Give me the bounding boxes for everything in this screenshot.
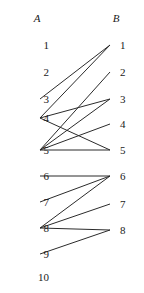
node-a-4: 4	[27, 112, 49, 124]
bipartite-diagram: A B 12345678910 12345678	[0, 0, 144, 293]
edge-A4-B5	[40, 118, 110, 150]
node-b-2: 2	[120, 66, 142, 78]
edge-A8-B7	[40, 204, 110, 228]
node-b-8: 8	[120, 224, 142, 236]
node-b-5: 5	[120, 144, 142, 156]
edge-A7-B6	[40, 176, 110, 202]
edge-A8-B6	[40, 176, 110, 228]
edge-A4-B1	[40, 45, 110, 118]
edge-A5-B2	[40, 72, 110, 150]
node-a-1: 1	[27, 39, 49, 51]
edge-A5-B3	[40, 99, 110, 150]
node-b-4: 4	[120, 118, 142, 130]
node-a-10: 10	[27, 271, 49, 283]
edge-A4-B3	[40, 99, 110, 118]
node-a-2: 2	[27, 66, 49, 78]
node-b-1: 1	[120, 39, 142, 51]
node-a-7: 7	[27, 196, 49, 208]
edge-A9-B8	[40, 230, 110, 254]
column-header-a: A	[27, 12, 47, 24]
node-b-6: 6	[120, 170, 142, 182]
node-b-3: 3	[120, 93, 142, 105]
edge-A3-B1	[40, 45, 110, 99]
edge-A8-B8	[40, 228, 110, 230]
node-a-8: 8	[27, 222, 49, 234]
column-header-b: B	[106, 12, 126, 24]
node-a-6: 6	[27, 170, 49, 182]
node-b-7: 7	[120, 198, 142, 210]
node-a-5: 5	[27, 144, 49, 156]
node-a-9: 9	[27, 248, 49, 260]
node-a-3: 3	[27, 93, 49, 105]
edge-A5-B4	[40, 124, 110, 150]
